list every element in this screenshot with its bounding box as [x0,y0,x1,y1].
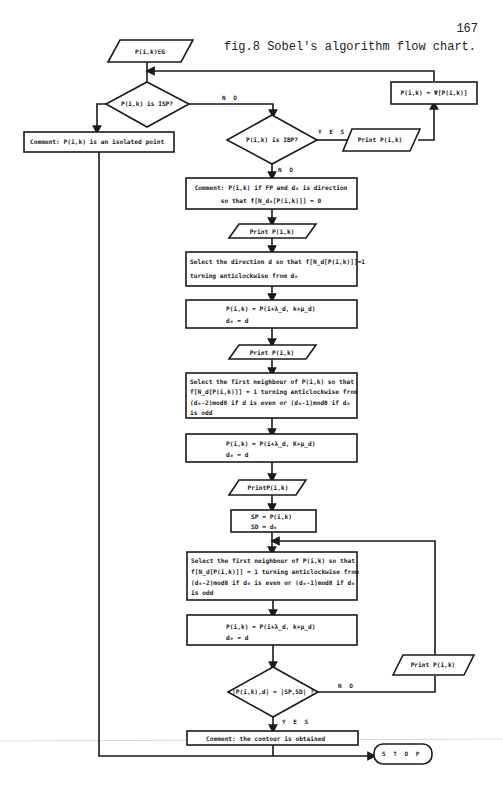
edge-isp-yes [97,104,106,130]
edge-label-ibp-no: N O [278,166,295,173]
svg-text:Print P(i,k): Print P(i,k) [250,349,295,356]
edge-label-contour-no: N O [338,682,355,689]
move-1-box: P(i,k) = P(i+λ_d, k+μ_d) d₀ = d [186,300,357,328]
edge-isp-no [189,104,273,114]
isp-decision: P(i,k) is ISP? [106,82,189,127]
svg-text:P(i,k)∈G: P(i,k)∈G [135,48,165,55]
svg-text:Print P(i,k): Print P(i,k) [250,228,295,235]
svg-text:SP = P(i,k): SP = P(i,k) [251,513,292,520]
print-ibp: Print P(i,k) [343,129,420,151]
move-3-box: P(i,k) = P(i+λ_d, k+μ_d) d₀ = d [187,615,357,645]
svg-text:Print P(i,k): Print P(i,k) [358,136,403,143]
page-number: 167 [456,22,478,36]
svg-text:is odd: is odd [190,409,213,416]
svg-text:Comment: P(i,k) is an isolated: Comment: P(i,k) is an isolated point [30,138,164,146]
svg-text:d₀ = d: d₀ = d [226,634,249,641]
svg-text:d₀ = d: d₀ = d [226,451,249,458]
edge-label-isp-no: N O [222,94,239,101]
flowchart: 167 fig.8 Sobel's algorithm flow chart. … [0,0,503,791]
print-3: PrintP(i,k) [229,480,306,495]
svg-text:Comment: P(i,k) if FP and d₀ i: Comment: P(i,k) if FP and d₀ is directio… [195,184,348,191]
svg-text:P(i,k) = P(i+λ_d, k+μ_d): P(i,k) = P(i+λ_d, k+μ_d) [226,305,315,313]
svg-text:Select the first neighbour of: Select the first neighbour of P(i,k) so … [190,378,354,386]
svg-text:P(i,k) = Ψ[P(i,k)]: P(i,k) = Ψ[P(i,k)] [400,89,467,96]
svg-text:f[N_d[P(i,k)]] = 1 turning ant: f[N_d[P(i,k)]] = 1 turning anticlockwise… [191,568,359,576]
edge-psi-loop-back [150,71,434,81]
assign-psi-box: P(i,k) = Ψ[P(i,k)] [391,82,477,104]
svg-text:P(i,k) = P(i+λ_d, k+μ_d): P(i,k) = P(i+λ_d, k+μ_d) [226,623,315,631]
svg-text:SD = d₀: SD = d₀ [251,523,277,530]
svg-text:(d₀-2)mod8 if d₀ is even or (d: (d₀-2)mod8 if d₀ is even or (d₀-1)mod8 i… [191,579,355,586]
svg-text:PrintP(i,k): PrintP(i,k) [248,484,289,491]
svg-text:Select the first neighbour of: Select the first neighbour of P(i,k) so … [191,557,355,565]
move-2-box: P(i,k) = P(i+λ_d, K+μ_d) d₀ = d [186,434,357,462]
svg-text:P(i,k) is IBP?: P(i,k) is IBP? [246,136,298,143]
print-loop: Print P(i,k) [393,655,474,675]
start-node: P(i,k)∈G [108,40,193,62]
edge-label-contour-yes: Y E S [282,718,310,725]
edge-label-ibp-yes: Y E S [318,128,346,135]
svg-text:so that f[N_d₀[P(i,k)]] = 0: so that f[N_d₀[P(i,k)]] = 0 [221,197,322,205]
select-neighbour-1-box: Select the first neighbour of P(i,k) so … [186,373,358,418]
svg-text:(d₀-2)mod8 if d is even or (d: (d₀-2)mod8 if d is even or (d₀-1)mod8 if… [190,399,350,406]
svg-text:Comment: the contour is obtain: Comment: the contour is obtained [206,735,325,742]
select-neighbour-2-box: Select the first neighbour of P(i,k) so … [187,552,359,600]
svg-text:turning anticlockwise from d₀: turning anticlockwise from d₀ [190,272,298,280]
edge-print-to-psi [418,105,434,140]
svg-text:Select the direction d so that: Select the direction d so that f[N_d[P(i… [190,258,365,266]
svg-text:is odd: is odd [191,589,214,596]
svg-text:|P(i,k),d| = |SP,SD| ?: |P(i,k),d| = |SP,SD| ? [232,688,314,696]
svg-text:P(i,k) = P(i+λ_d, K+μ_d): P(i,k) = P(i+λ_d, K+μ_d) [226,440,315,448]
contour-decision: |P(i,k),d| = |SP,SD| ? [228,667,318,717]
stop-terminator: S T O P [374,744,432,764]
print-1: Print P(i,k) [229,224,316,238]
figure-caption: fig.8 Sobel's algorithm flow chart. [224,40,476,54]
isolated-point-comment: Comment: P(i,k) is an isolated point [24,132,174,152]
svg-text:f[N_d[P(i,k)]] = 1 turning ant: f[N_d[P(i,k)]] = 1 turning anticlockwise… [190,388,358,396]
print-2: Print P(i,k) [229,345,316,359]
edge-contour-no [318,676,435,692]
ibp-decision: P(i,k) is IBP? [227,115,317,164]
save-start-box: SP = P(i,k) SD = d₀ [231,510,316,532]
svg-text:S T O P: S T O P [382,750,421,757]
svg-text:d₀ = d: d₀ = d [226,317,249,324]
select-direction-box: Select the direction d so that f[N_d[P(i… [186,252,365,286]
fp-comment: Comment: P(i,k) if FP and d₀ is directio… [186,178,357,209]
svg-text:P(i,k) is ISP?: P(i,k) is ISP? [121,100,173,107]
svg-text:Print P(i,k): Print P(i,k) [411,661,456,668]
contour-comment: Comment: the contour is obtained [187,731,358,745]
